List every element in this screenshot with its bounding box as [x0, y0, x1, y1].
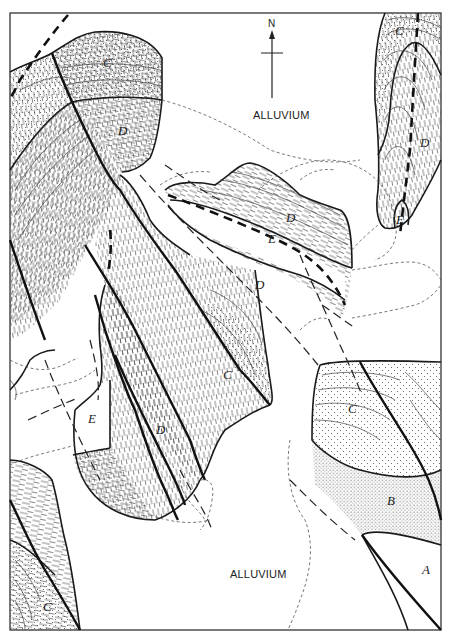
alluvium-label-bottom: ALLUVIUM: [230, 568, 287, 580]
north-arrow: N: [261, 18, 283, 98]
unit-label-b-right: B: [387, 493, 395, 508]
unit-label-d-left-center: D: [155, 422, 166, 437]
unit-label-c-top-right: C: [395, 23, 404, 38]
unit-label-c-bottom-left: C: [43, 599, 52, 614]
north-arrow-head: [269, 30, 275, 39]
unit-label-c-top-left: C: [103, 55, 112, 70]
outcrop-top-right: [375, 13, 441, 235]
north-label: N: [268, 18, 275, 29]
geologic-map: N ALLUVIUM ALLUVIUM C D C D E D E D C D …: [0, 0, 455, 634]
unit-label-e-left-center: E: [87, 411, 96, 426]
unit-label-c-center: C: [223, 367, 232, 382]
unit-label-e-center: E: [267, 231, 276, 246]
unit-label-d-top-left: D: [117, 123, 128, 138]
alluvium-label-top: ALLUVIUM: [253, 109, 310, 121]
left-lobe-contact: [10, 350, 55, 390]
unit-label-d-top-right: D: [419, 135, 430, 150]
unit-label-e-top-right: E: [395, 212, 404, 227]
outcrop-right: [312, 361, 441, 630]
unit-label-d-center-lower: D: [254, 277, 265, 292]
unit-label-a-bottom-right: A: [421, 562, 430, 577]
unit-label-c-right: C: [348, 401, 357, 416]
unit-label-d-center-upper: D: [285, 210, 296, 225]
